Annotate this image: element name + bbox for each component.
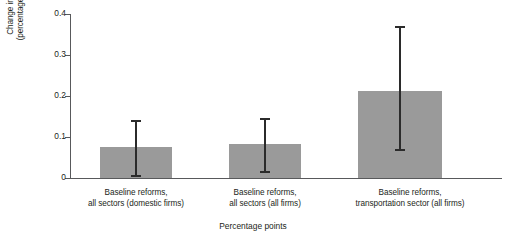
error-bar-cap-bottom: [395, 149, 405, 151]
y-axis-title-line-1: Change in TFP: [6, 0, 16, 68]
error-bar-stem: [264, 118, 266, 173]
category-label-1-line-2: all sectors (all firms): [195, 199, 335, 210]
category-label-2-line-1: Baseline reforms,: [330, 188, 490, 199]
error-bar-cap-top: [395, 26, 405, 28]
y-tick-label-1: 0.1: [54, 131, 66, 142]
y-axis-title: Change in TFP (percentage point): [6, 0, 30, 68]
y-tick-label-2: 0.2: [54, 90, 66, 101]
error-bar-stem: [399, 26, 401, 151]
y-tick-label-4: 0.4: [54, 8, 66, 19]
error-bar-cap-top: [260, 118, 270, 120]
error-bar-0: [100, 120, 172, 177]
x-axis-line: [66, 178, 502, 179]
error-bar-1: [229, 118, 301, 173]
category-label-1: Baseline reforms, all sectors (all firms…: [195, 188, 335, 209]
y-axis-title-line-2: (percentage point): [16, 0, 26, 68]
category-label-0: Baseline reforms, all sectors (domestic …: [66, 188, 206, 209]
y-tick-label-0: 0: [61, 172, 66, 183]
x-axis-title: Percentage points: [0, 221, 506, 232]
error-bar-stem: [135, 120, 137, 177]
error-bar-cap-top: [131, 120, 141, 122]
category-label-0-line-2: all sectors (domestic firms): [66, 199, 206, 210]
plot-area: 0.4 0.3 0.2 0.1 0: [70, 14, 502, 178]
y-tick-label-3: 0.3: [54, 49, 66, 60]
error-bar-cap-bottom: [260, 171, 270, 173]
category-label-1-line-1: Baseline reforms,: [195, 188, 335, 199]
category-label-2-line-2: transportation sector (all firms): [330, 199, 490, 210]
y-axis-line: [70, 14, 71, 179]
bar-chart-figure: Change in TFP (percentage point) 0.4 0.3…: [0, 0, 506, 241]
error-bar-cap-bottom: [131, 175, 141, 177]
category-label-0-line-1: Baseline reforms,: [66, 188, 206, 199]
error-bar-2: [358, 26, 442, 151]
category-label-2: Baseline reforms, transportation sector …: [330, 188, 490, 209]
